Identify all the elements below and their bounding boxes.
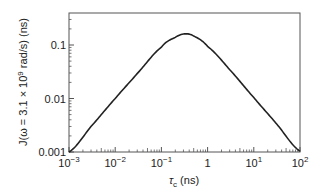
x-tick-label: 10−1 (151, 155, 173, 169)
x-tick-label: 10−2 (105, 155, 127, 169)
x-axis-label: τc (ns) (169, 174, 199, 189)
minor-ticks (69, 19, 298, 152)
chart: 10−310−210−11101102 0.0010.010.1 τc (ns)… (0, 0, 320, 194)
y-tick-label: 0.01 (45, 93, 66, 105)
major-ticks (69, 45, 300, 152)
y-tick-label: 0.001 (38, 146, 66, 158)
x-tick-label: 101 (245, 155, 262, 169)
data-curve (69, 34, 300, 152)
y-tick-label: 0.1 (51, 39, 66, 51)
x-tick-label: 102 (292, 155, 309, 169)
x-tick-labels: 10−310−210−11101102 (58, 155, 309, 169)
x-tick-label: 1 (205, 157, 211, 169)
y-axis-label: J(ω = 3.1 × 109 rad/s) (ns) (16, 18, 29, 146)
y-tick-labels: 0.0010.010.1 (38, 39, 66, 158)
